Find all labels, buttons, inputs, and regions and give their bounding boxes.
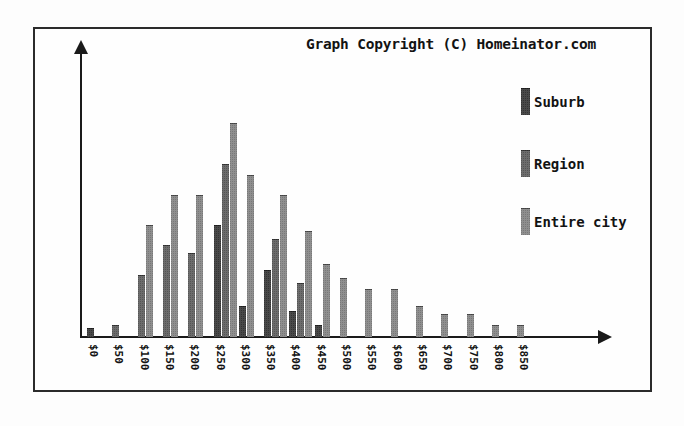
x-axis-tick-label: $800 — [492, 344, 505, 371]
bar — [297, 283, 304, 337]
bar — [323, 264, 330, 337]
bar — [280, 195, 287, 337]
bar — [391, 289, 398, 337]
bar — [171, 195, 178, 337]
x-axis-tick-label: $500 — [340, 344, 353, 371]
bar-group — [391, 60, 399, 337]
arrow-right-icon — [598, 330, 612, 344]
bar — [315, 325, 322, 337]
x-axis-tick-label: $300 — [239, 344, 252, 371]
bar-plot-area — [82, 60, 537, 337]
bar — [188, 253, 195, 337]
bar-group — [112, 60, 120, 337]
bar — [305, 231, 312, 337]
bar — [467, 314, 474, 337]
legend-item[interactable]: Region — [521, 150, 585, 177]
x-axis-tick-label: $400 — [289, 344, 302, 371]
bar — [214, 225, 221, 337]
bar-group — [188, 60, 204, 337]
bar — [365, 289, 372, 337]
x-axis-tick-label: $450 — [315, 344, 328, 371]
bar — [222, 164, 229, 337]
x-axis-tick-label: $650 — [416, 344, 429, 371]
bar-group — [163, 60, 179, 337]
bar — [272, 239, 279, 337]
bar-group — [441, 60, 449, 337]
bar-group — [340, 60, 348, 337]
bar-group — [289, 60, 313, 337]
legend-label: Suburb — [534, 94, 585, 110]
x-axis-tick-label: $200 — [188, 344, 201, 371]
bar — [112, 325, 119, 337]
bar — [247, 175, 254, 337]
bar — [146, 225, 153, 337]
bar — [230, 123, 237, 337]
bar-group — [87, 60, 95, 337]
bar — [163, 245, 170, 337]
bar — [264, 270, 271, 337]
bar — [138, 275, 145, 337]
legend-label: Region — [534, 156, 585, 172]
legend-item[interactable]: Suburb — [521, 88, 585, 115]
legend-swatch-icon — [521, 208, 530, 235]
bar-group — [416, 60, 424, 337]
bar-group — [492, 60, 500, 337]
bar — [492, 325, 499, 337]
x-axis-tick-label: $50 — [112, 344, 125, 364]
x-axis-tick-label: $550 — [365, 344, 378, 371]
x-axis-tick-label: $700 — [441, 344, 454, 371]
bar-group — [214, 60, 238, 337]
x-axis-tick-label: $150 — [163, 344, 176, 371]
bar — [416, 306, 423, 337]
legend-swatch-icon — [521, 150, 530, 177]
x-axis-tick-label: $100 — [138, 344, 151, 371]
bar-group — [264, 60, 288, 337]
bar-group — [467, 60, 475, 337]
bar-group — [315, 60, 331, 337]
bar — [87, 328, 94, 337]
bar-group — [239, 60, 255, 337]
x-axis-tick-label: $350 — [264, 344, 277, 371]
bar — [517, 325, 524, 337]
x-axis-tick-label: $250 — [214, 344, 227, 371]
chart-page: Graph Copyright (C) Homeinator.com $0$50… — [0, 0, 684, 426]
bar-group — [138, 60, 154, 337]
x-axis-tick-label: $850 — [517, 344, 530, 371]
bar — [239, 306, 246, 337]
x-axis-tick-label: $750 — [467, 344, 480, 371]
x-axis-tick-label: $0 — [87, 344, 100, 357]
bar — [289, 311, 296, 337]
x-axis-tick-label: $600 — [391, 344, 404, 371]
bar — [340, 278, 347, 337]
chart-title: Graph Copyright (C) Homeinator.com — [306, 36, 596, 52]
legend-item[interactable]: Entire city — [521, 208, 627, 235]
bar-group — [365, 60, 373, 337]
legend-swatch-icon — [521, 88, 530, 115]
legend-label: Entire city — [534, 214, 627, 230]
bar — [196, 195, 203, 337]
bar — [441, 314, 448, 337]
